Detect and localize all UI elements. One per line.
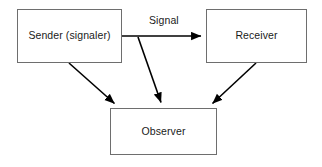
node-receiver[interactable]: Receiver <box>206 9 307 63</box>
node-receiver-label: Receiver <box>235 30 277 42</box>
diagram-canvas: Sender (signaler) Receiver Observer Sign… <box>0 0 322 167</box>
edge-label-signal: Signal <box>149 14 179 26</box>
node-observer-label: Observer <box>142 126 186 138</box>
edge-signal-to-observer <box>138 37 161 103</box>
edge-sender-to-observer <box>69 63 115 104</box>
edge-receiver-to-observer <box>213 63 257 104</box>
node-sender-label: Sender (signaler) <box>28 30 110 42</box>
node-observer[interactable]: Observer <box>110 108 217 155</box>
node-sender[interactable]: Sender (signaler) <box>17 9 122 63</box>
